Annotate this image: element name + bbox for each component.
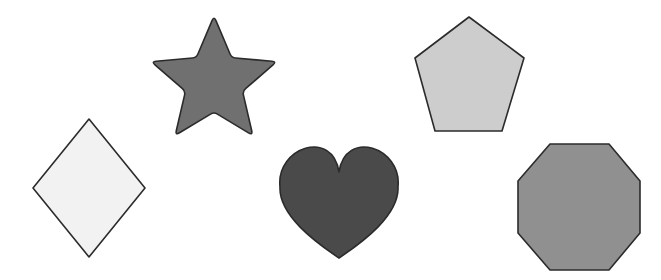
- shapes-svg-canvas: [0, 0, 661, 280]
- shapes-canvas-root: [0, 0, 661, 280]
- octagon-shape[interactable]: [518, 144, 640, 270]
